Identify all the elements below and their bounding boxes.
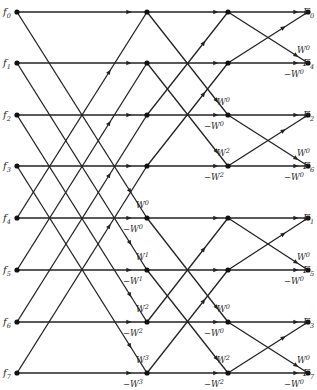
butterfly-node [225, 112, 230, 117]
butterfly-node [225, 60, 230, 65]
weight-label-neg: −W0 [204, 120, 224, 132]
arrowhead-icon [126, 371, 131, 375]
butterfly-node [225, 215, 230, 220]
butterfly-node [14, 163, 19, 168]
weight-label-neg: −W0 [204, 327, 224, 339]
weight-label-neg: −W3 [123, 378, 143, 390]
arrowhead-icon [293, 164, 298, 168]
arrowhead-icon [213, 113, 218, 117]
butterfly-node [14, 215, 19, 220]
arrowhead-icon [213, 61, 218, 65]
output-label-F3: F3 [302, 316, 314, 330]
weight-label-diag: W0 [217, 303, 230, 315]
weight-label-neg: −W2 [123, 327, 143, 339]
butterfly-node [14, 9, 19, 14]
butterfly-nodes [14, 9, 310, 375]
arrowhead-icon [213, 10, 218, 14]
weight-label-neg: −W0 [284, 171, 304, 183]
butterfly-node [225, 163, 230, 168]
input-label-f6: f6 [2, 316, 11, 330]
weight-label-diag: W0 [297, 44, 310, 56]
arrowhead-icon [213, 371, 218, 375]
input-label-f3: f3 [2, 160, 11, 174]
weight-label-diag: W0 [297, 354, 310, 366]
input-label-f0: f0 [2, 6, 11, 20]
input-label-f1: f1 [2, 57, 11, 71]
butterfly-node [144, 215, 149, 220]
arrowhead-icon [126, 216, 131, 220]
butterfly-node [225, 370, 230, 375]
arrowhead-icon [293, 371, 298, 375]
weight-label-neg: −W0 [123, 223, 143, 235]
arrowhead-icon [293, 216, 298, 220]
weight-label-neg: −W2 [204, 171, 224, 183]
weight-label-diag: W0 [136, 199, 149, 211]
output-label-F0: F0 [302, 6, 314, 20]
arrowhead-icon [213, 164, 218, 168]
weight-label-neg: −W0 [284, 275, 304, 287]
arrowhead-icon [126, 268, 131, 272]
weight-label-diag: W0 [297, 251, 310, 263]
butterfly-node [225, 267, 230, 272]
butterfly-node [225, 9, 230, 14]
weight-label-neg: −W0 [284, 378, 304, 390]
butterfly-node [14, 370, 19, 375]
arrowhead-icon [293, 10, 298, 14]
weight-label-diag: W2 [217, 354, 230, 366]
arrowhead-icon [213, 268, 218, 272]
input-label-f4: f4 [2, 212, 11, 226]
butterfly-edges [17, 10, 308, 375]
arrowhead-icon [213, 320, 218, 324]
weight-label-neg: −W0 [284, 68, 304, 80]
arrowhead-icon [126, 61, 131, 65]
butterfly-node [144, 319, 149, 324]
arrowhead-icon [213, 216, 218, 220]
butterfly-node [144, 9, 149, 14]
output-label-F2: F2 [302, 109, 314, 123]
output-label-F1: F1 [302, 212, 314, 226]
butterfly-node [144, 267, 149, 272]
weight-label-diag: W2 [217, 147, 230, 159]
butterfly-node [14, 267, 19, 272]
butterfly-node [14, 319, 19, 324]
arrowhead-icon [293, 320, 298, 324]
weight-label-diag: W1 [136, 251, 149, 263]
input-label-f7: f7 [2, 367, 12, 381]
arrowhead-icon [126, 10, 131, 14]
weight-label-diag: W3 [136, 354, 149, 366]
butterfly-node [225, 319, 230, 324]
butterfly-node [14, 112, 19, 117]
weight-label-neg: −W1 [123, 275, 143, 287]
butterfly-node [144, 60, 149, 65]
arrowhead-icon [126, 164, 131, 168]
weight-label-diag: W0 [297, 147, 310, 159]
butterfly-node [144, 163, 149, 168]
butterfly-node [14, 60, 19, 65]
input-label-f2: f2 [2, 109, 11, 123]
input-label-f5: f5 [2, 264, 11, 278]
weight-label-neg: −W2 [204, 378, 224, 390]
butterfly-node [144, 112, 149, 117]
arrowhead-icon [293, 268, 298, 272]
arrowhead-icon [126, 320, 131, 324]
arrowhead-icon [293, 61, 298, 65]
butterfly-node [144, 370, 149, 375]
weight-label-diag: W0 [217, 96, 230, 108]
arrowhead-icon [126, 113, 131, 117]
arrowhead-icon [293, 113, 298, 117]
fft-butterfly-diagram: f0f1f2f3f4f5f6f7F0F4F2F6F1F5F3F7W0−W0W1−… [0, 0, 317, 390]
weight-label-diag: W2 [136, 303, 149, 315]
